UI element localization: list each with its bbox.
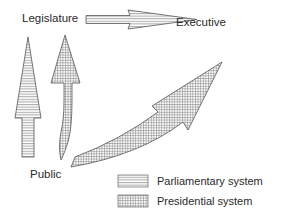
arrow-public-to-legislature-parliamentary xyxy=(15,37,41,157)
arrow-public-to-executive xyxy=(71,62,222,167)
legend-swatch-parliamentary xyxy=(118,175,148,187)
legend-swatch-presidential xyxy=(118,195,148,207)
node-executive: Executive xyxy=(176,17,226,29)
legend-label-presidential: Presidential system xyxy=(157,196,252,207)
node-legislature: Legislature xyxy=(22,13,78,25)
diagram-canvas xyxy=(0,0,282,224)
arrow-public-to-legislature-presidential xyxy=(51,35,80,160)
legend-label-parliamentary: Parliamentary system xyxy=(157,176,263,187)
node-public: Public xyxy=(30,169,61,181)
